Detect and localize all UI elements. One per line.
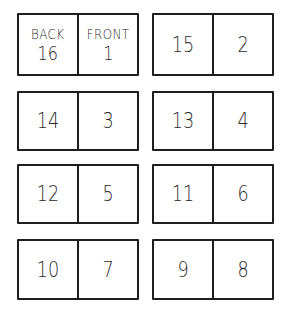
page-6: 6 — [212, 166, 272, 222]
page-number: 3 — [102, 109, 113, 133]
page-number: 15 — [172, 33, 194, 57]
page-15: 15 — [154, 15, 212, 74]
spread-14-3: 14 3 — [17, 91, 139, 151]
page-number: 14 — [37, 109, 59, 133]
page-2: 2 — [212, 15, 272, 74]
page-number: 7 — [102, 258, 113, 282]
page-number: 16 — [38, 42, 58, 64]
page-number: 9 — [177, 258, 188, 282]
page-number: 6 — [237, 182, 248, 206]
spread-11-6: 11 6 — [152, 164, 274, 224]
page-4: 4 — [212, 93, 272, 149]
page-3: 3 — [77, 93, 137, 149]
page-8: 8 — [212, 241, 272, 298]
page-number: 12 — [37, 182, 59, 206]
page-back-16: BACK 16 — [19, 15, 77, 74]
back-label: BACK — [31, 26, 65, 42]
page-number: 2 — [237, 33, 248, 57]
page-7: 7 — [77, 241, 137, 298]
page-14: 14 — [19, 93, 77, 149]
spread-13-4: 13 4 — [152, 91, 274, 151]
spread-10-7: 10 7 — [17, 239, 139, 300]
page-11: 11 — [154, 166, 212, 222]
front-label: FRONT — [87, 26, 130, 42]
spread-15-2: 15 2 — [152, 13, 274, 76]
page-5: 5 — [77, 166, 137, 222]
page-number: 11 — [172, 182, 194, 206]
page-10: 10 — [19, 241, 77, 298]
page-front-1: FRONT 1 — [77, 15, 137, 74]
page-number: 5 — [102, 182, 113, 206]
page-9: 9 — [154, 241, 212, 298]
page-number: 10 — [37, 258, 59, 282]
spread-9-8: 9 8 — [152, 239, 274, 300]
spread-16-1: BACK 16 FRONT 1 — [17, 13, 139, 76]
page-number: 4 — [237, 109, 248, 133]
page-12: 12 — [19, 166, 77, 222]
page-number: 8 — [237, 258, 248, 282]
page-number: 1 — [103, 42, 113, 64]
spread-12-5: 12 5 — [17, 164, 139, 224]
page-13: 13 — [154, 93, 212, 149]
page-number: 13 — [172, 109, 194, 133]
